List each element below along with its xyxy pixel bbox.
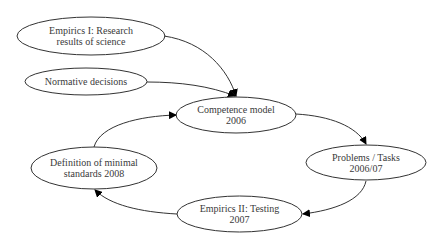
- edge-competence-to-problems: [296, 114, 366, 144]
- node-empirics2-shape: [177, 196, 302, 232]
- edge-problems-to-empirics2: [303, 181, 366, 214]
- node-normative-shape: [25, 68, 147, 95]
- edge-normative-to-competence: [147, 82, 235, 96]
- diagram-canvas: [0, 0, 448, 247]
- node-empirics1-shape: [17, 17, 165, 55]
- node-problems-shape: [306, 145, 426, 180]
- edge-empirics1-to-competence: [164, 36, 236, 96]
- edge-empirics2-to-definition: [95, 190, 177, 214]
- edge-definition-to-competence: [94, 115, 176, 147]
- node-competence-shape: [176, 97, 296, 133]
- node-definition-shape: [31, 147, 157, 189]
